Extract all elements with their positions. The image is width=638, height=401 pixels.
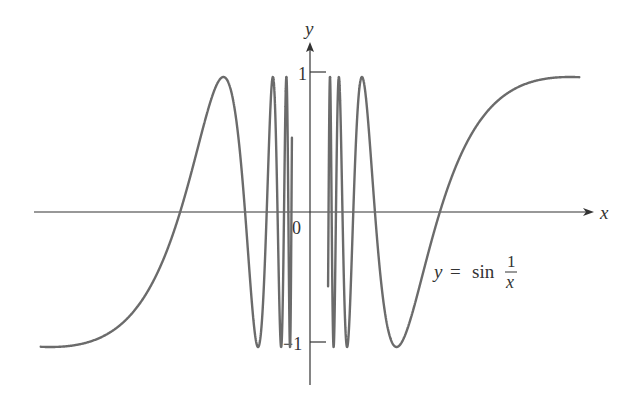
eq-numerator: 1 — [507, 252, 516, 271]
equation-label: y = sin 1 x — [432, 252, 517, 292]
tick-label-neg1: −1 — [283, 334, 302, 354]
eq-sign: = — [450, 261, 461, 282]
x-axis-label: x — [599, 202, 609, 223]
eq-lhs: y — [432, 261, 443, 282]
tick-label-1: 1 — [298, 64, 307, 84]
y-axis-label: y — [303, 18, 314, 39]
eq-fn: sin — [472, 261, 495, 282]
chart-canvas: x y 1 −1 0 y = sin 1 x — [0, 0, 638, 401]
origin-label: 0 — [292, 218, 301, 238]
eq-denominator: x — [505, 272, 514, 292]
